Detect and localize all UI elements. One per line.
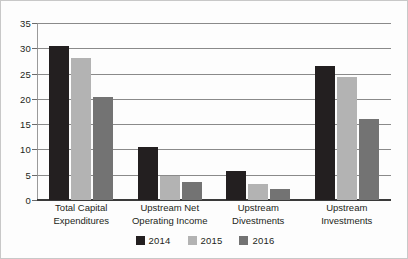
bar — [160, 176, 180, 200]
category-label-line: Upstream Net — [126, 202, 215, 215]
bar — [49, 46, 69, 200]
bar — [248, 184, 268, 200]
legend-entry-2014[interactable]: 2014 — [136, 235, 171, 246]
y-axis-tick-label: 15 — [20, 119, 31, 130]
legend-label: 2015 — [201, 235, 223, 246]
chart-legend: 201420152016 — [1, 235, 408, 246]
bar — [337, 77, 357, 200]
x-axis-category-label: Upstream NetOperating Income — [126, 202, 215, 227]
bar — [71, 58, 91, 200]
bar-group — [214, 23, 303, 200]
y-axis-tick-label: 20 — [20, 93, 31, 104]
category-label-line: Expenditures — [37, 215, 126, 228]
bar — [93, 97, 113, 200]
bar — [182, 182, 202, 200]
x-axis-category-label: Total CapitalExpenditures — [37, 202, 126, 227]
bar-group — [303, 23, 392, 200]
category-label-line: Upstream — [214, 202, 303, 215]
category-label-line: Total Capital — [37, 202, 126, 215]
bar — [138, 147, 158, 200]
legend-label: 2016 — [252, 235, 274, 246]
bar — [315, 66, 335, 200]
bar-layer — [37, 23, 391, 200]
y-axis-tick-label: 5 — [26, 169, 31, 180]
legend-swatch-icon — [136, 236, 145, 245]
category-label-line: Divestments — [214, 215, 303, 228]
x-axis-category-labels: Total CapitalExpendituresUpstream NetOpe… — [37, 202, 391, 234]
category-label-line: Operating Income — [126, 215, 215, 228]
plot-area: 05101520253035 — [37, 23, 391, 200]
y-axis-tick-label: 35 — [20, 18, 31, 29]
bar-group — [126, 23, 215, 200]
category-label-line: Investments — [303, 215, 392, 228]
bar — [359, 119, 379, 200]
bar — [270, 189, 290, 200]
y-axis-tick-mark — [32, 200, 37, 201]
y-axis-tick-label: 10 — [20, 144, 31, 155]
legend-entry-2015[interactable]: 2015 — [188, 235, 223, 246]
bar-group — [37, 23, 126, 200]
category-label-line: Upstream — [303, 202, 392, 215]
y-axis-tick-label: 25 — [20, 68, 31, 79]
x-axis-category-label: UpstreamInvestments — [303, 202, 392, 227]
legend-swatch-icon — [239, 236, 248, 245]
bar-chart-figure: 05101520253035 Total CapitalExpenditures… — [0, 0, 408, 259]
legend-entry-2016[interactable]: 2016 — [239, 235, 274, 246]
y-axis-tick-label: 0 — [26, 195, 31, 206]
legend-label: 2014 — [149, 235, 171, 246]
legend-swatch-icon — [188, 236, 197, 245]
y-axis-tick-label: 30 — [20, 43, 31, 54]
bar — [226, 171, 246, 200]
x-axis-category-label: UpstreamDivestments — [214, 202, 303, 227]
